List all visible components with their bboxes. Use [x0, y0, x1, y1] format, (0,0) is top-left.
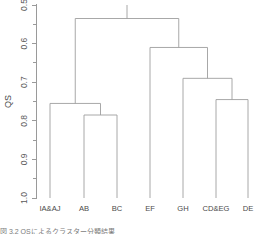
y-axis-tick-label: 0.7 [19, 76, 29, 88]
y-axis-tick-label: 0.8 [19, 115, 29, 127]
y-axis-tick-label: 0.5 [19, 0, 29, 11]
dendrogram-branch [216, 100, 248, 198]
dendrogram-branch [183, 78, 232, 198]
caption-text: 図 3.2 QSによるクラスター分類結果 [0, 228, 267, 234]
dendrogram-branch [150, 47, 208, 198]
dendrogram-tree [50, 5, 248, 198]
y-axis-tick-label: 1.0 [19, 192, 29, 204]
dendrogram-branch [84, 115, 117, 198]
y-axis-tick-label: 0.9 [19, 153, 29, 165]
leaf-labels: IA&AJABBCEFGHCD&EGDE [39, 204, 253, 213]
dendrogram-branch [50, 103, 101, 198]
y-axis: 0.50.60.70.80.91.0 [19, 0, 36, 204]
dendrogram-branch [75, 19, 179, 104]
y-axis-title-text: QS [3, 95, 13, 108]
leaf-label-gh: GH [177, 204, 188, 213]
dendrogram-figure: 0.50.60.70.80.91.0 IA&AJABBCEFGHCD&EGDE … [0, 0, 267, 234]
leaf-label-ef: EF [145, 204, 155, 213]
y-axis-title: QS [3, 95, 13, 108]
dendrogram-canvas: 0.50.60.70.80.91.0 IA&AJABBCEFGHCD&EGDE … [0, 0, 267, 234]
leaf-label-ia-aj: IA&AJ [39, 204, 60, 213]
leaf-label-bc: BC [112, 204, 123, 213]
leaf-label-cd-eg: CD&EG [202, 204, 229, 213]
figure-caption: 図 3.2 QSによるクラスター分類結果 [0, 228, 267, 234]
y-axis-tick-label: 0.6 [19, 37, 29, 49]
leaf-label-de: DE [243, 204, 254, 213]
leaf-label-ab: AB [79, 204, 89, 213]
